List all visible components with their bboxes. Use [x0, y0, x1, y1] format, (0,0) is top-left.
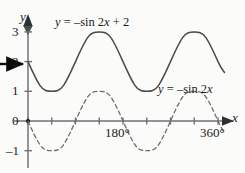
y-tick-label-0: 0	[12, 114, 19, 127]
solid-label-tail: + 2	[110, 15, 130, 29]
y-axis-label: y	[20, 10, 26, 23]
solid-curve-label: y = –sin 2x + 2	[55, 16, 129, 29]
dashed-label-rhs: –sin 2	[177, 82, 207, 96]
trig-graph-figure: 3 2 1 0 –1 180° 360° x y y = –sin 2x + 2…	[0, 0, 245, 173]
y-tick-label-1: 1	[12, 84, 19, 97]
dashed-label-var: x	[207, 82, 213, 96]
x-tick-label-360: 360°	[200, 126, 225, 139]
y-tick-label-minus-1: –1	[6, 144, 19, 157]
dashed-label-eq: =	[164, 82, 177, 96]
solid-label-eq: =	[61, 15, 74, 29]
x-axis-label: x	[232, 111, 238, 124]
solid-label-rhs: –sin 2	[74, 15, 104, 29]
y-tick-label-3: 3	[12, 25, 19, 38]
dashed-curve-label: y = –sin 2x	[158, 83, 213, 96]
y-tick-label-2: 2	[12, 55, 19, 68]
x-tick-label-180: 180°	[105, 126, 130, 139]
